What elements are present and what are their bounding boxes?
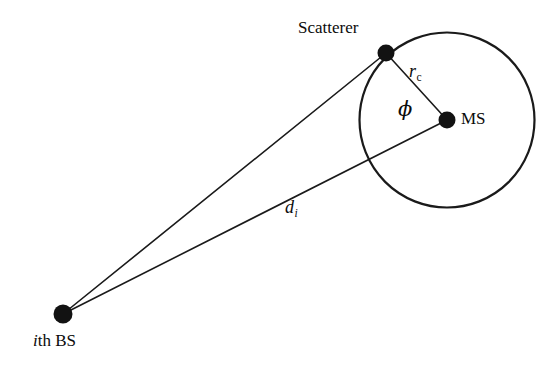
ms-dot — [439, 112, 456, 129]
scatter-radius-label: rc — [409, 62, 421, 80]
scatter-radius-subscript: c — [417, 71, 422, 83]
distance-label: di — [285, 198, 297, 216]
distance-symbol: d — [285, 197, 294, 217]
distance-subscript: i — [295, 207, 298, 219]
scatterer-dot — [378, 45, 395, 62]
bs-to-scatterer-line — [63, 53, 386, 314]
bs-label-text: th BS — [38, 331, 76, 350]
scatter-radius-symbol: r — [409, 61, 416, 81]
ms-label: MS — [461, 110, 486, 127]
scatterer-label: Scatterer — [298, 19, 358, 36]
bs-label: ith BS — [33, 332, 76, 349]
scattering-geometry-figure: Scatterer MS ith BS rc ϕ di — [0, 0, 557, 370]
geometry-canvas — [0, 0, 557, 370]
bs-dot — [54, 305, 73, 324]
bs-to-ms-line — [63, 120, 447, 314]
angle-phi-label: ϕ — [398, 99, 412, 120]
